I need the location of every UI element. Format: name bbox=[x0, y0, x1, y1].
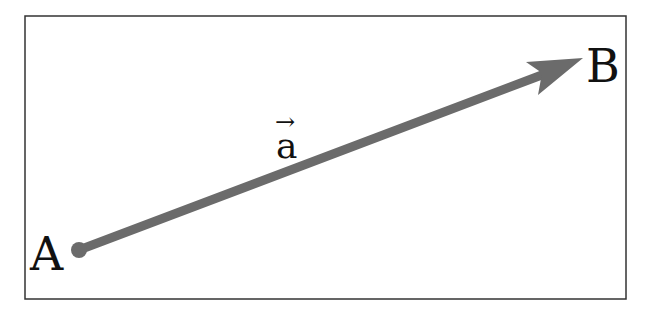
vector-label: a bbox=[276, 125, 297, 166]
vector-shaft bbox=[79, 70, 555, 250]
point-a-dot bbox=[71, 242, 87, 258]
point-b-label: B bbox=[586, 39, 620, 93]
vector-diagram: A B → a bbox=[0, 0, 650, 309]
point-a-label: A bbox=[29, 227, 64, 281]
